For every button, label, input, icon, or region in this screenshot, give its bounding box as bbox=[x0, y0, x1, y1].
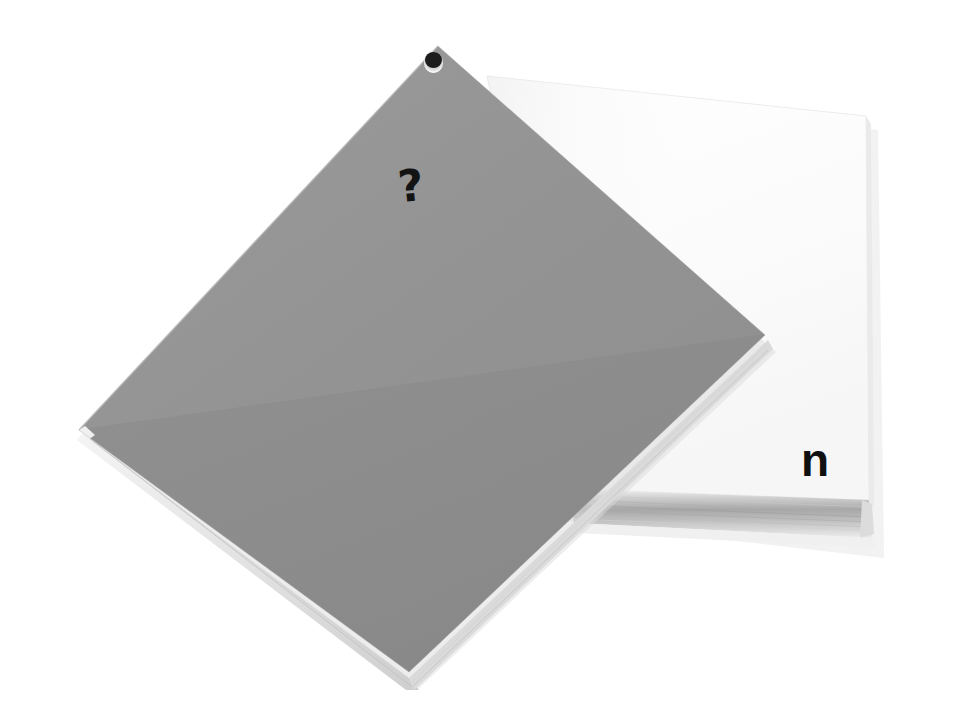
gray-sheet-label-question: ? bbox=[396, 163, 425, 209]
gray-sheet-hole bbox=[424, 52, 443, 73]
hole-dot-icon bbox=[425, 52, 442, 68]
gray-sheet-svg bbox=[0, 0, 962, 717]
photo-scene: n bbox=[0, 0, 962, 717]
gray-diamond-sheet bbox=[0, 0, 962, 717]
